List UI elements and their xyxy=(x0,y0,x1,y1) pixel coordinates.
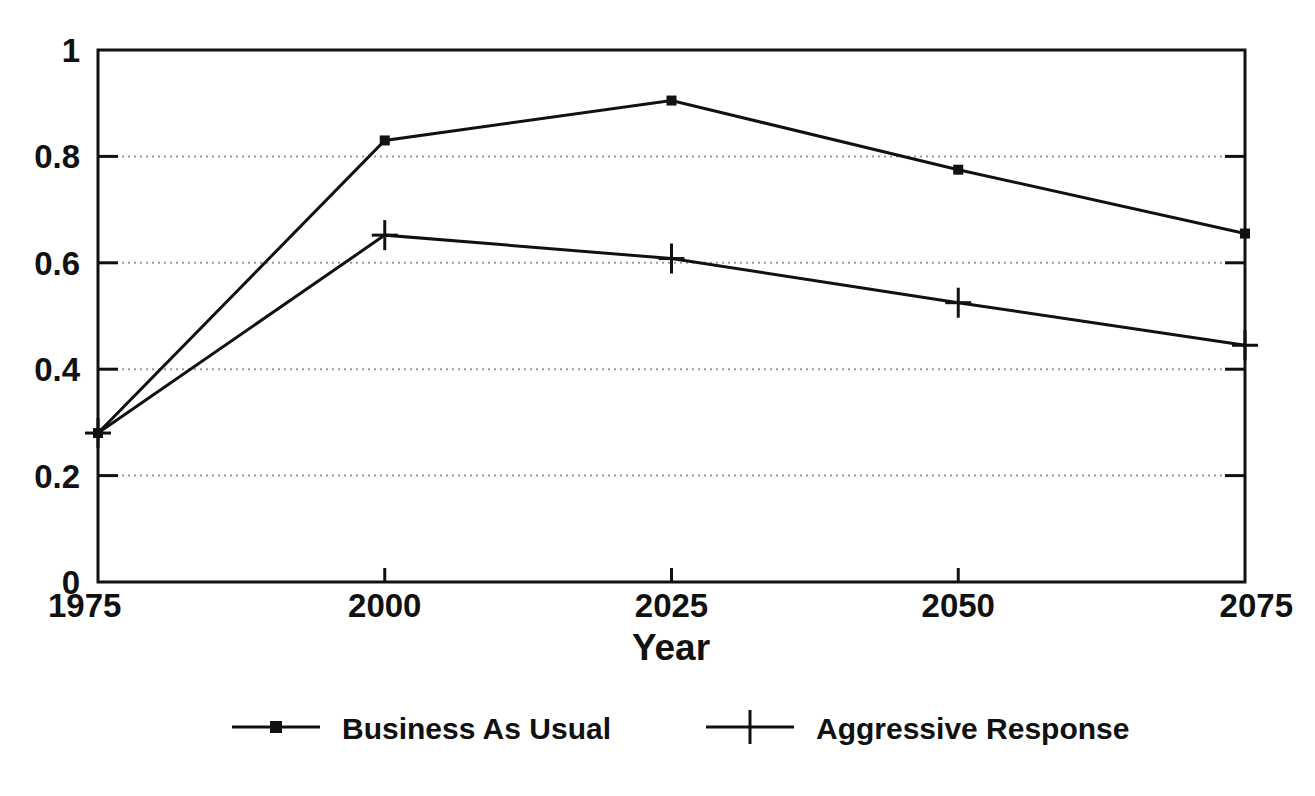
legend-item-1: Business As Usual xyxy=(232,712,611,745)
x-axis-tick-label: 2025 xyxy=(635,587,708,624)
x-axis-title: Year xyxy=(632,627,710,668)
dot-marker xyxy=(1240,229,1250,239)
dot-marker xyxy=(270,721,282,733)
series-markers-group xyxy=(85,96,1258,449)
dot-marker xyxy=(380,135,390,145)
y-axis-tick-label: 0.6 xyxy=(34,245,80,282)
chart-canvas: 10.80.60.40.20 19752000202520502075 Year… xyxy=(0,0,1315,796)
x-axis-tick-label: 1975 xyxy=(48,587,121,624)
cross-marker xyxy=(659,244,685,274)
cross-marker xyxy=(1232,330,1258,360)
legend-item-label: Aggressive Response xyxy=(816,712,1129,745)
dot-marker xyxy=(667,96,677,106)
y-axis-tick-label: 0.4 xyxy=(34,351,81,388)
legend-item-label: Business As Usual xyxy=(342,712,611,745)
x-axis-tick-label: 2000 xyxy=(348,587,421,624)
x-axis-tick-label: 2050 xyxy=(922,587,995,624)
y-axis-tick-label: 0.2 xyxy=(34,458,80,495)
line-chart-figure: 10.80.60.40.20 19752000202520502075 Year… xyxy=(0,0,1315,796)
x-axis-tick-labels-group: 19752000202520502075 xyxy=(48,568,1293,624)
legend-item-2: Aggressive Response xyxy=(706,710,1129,745)
legend: Business As UsualAggressive Response xyxy=(232,710,1129,745)
cross-marker xyxy=(372,220,398,250)
y-axis-tick-label: 0.8 xyxy=(34,138,80,175)
x-axis-tick-label: 2075 xyxy=(1220,587,1293,624)
dot-marker xyxy=(953,165,963,175)
cross-marker xyxy=(945,288,971,318)
y-axis-tick-labels-group: 10.80.60.40.20 xyxy=(34,32,81,601)
y-axis-tick-label: 1 xyxy=(62,32,80,69)
